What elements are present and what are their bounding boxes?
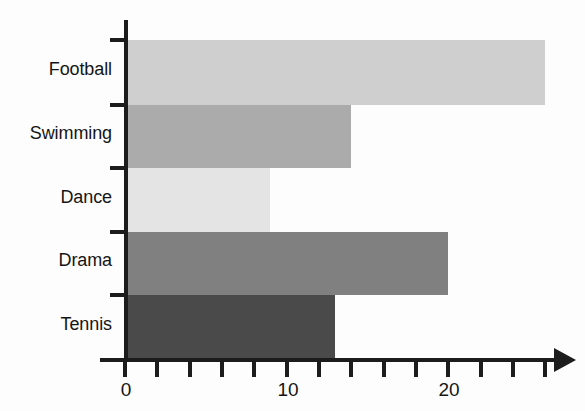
bar-chart: Football Swimming Dance Drama Tennis 0 1… [0, 0, 585, 411]
x-axis-tick [155, 360, 159, 377]
x-axis-tick [446, 360, 450, 377]
bar-dance [125, 168, 270, 232]
y-axis-tick [110, 38, 128, 42]
plot-area: Football Swimming Dance Drama Tennis 0 1… [0, 0, 585, 411]
x-axis-label-10: 10 [268, 379, 308, 401]
y-axis-label-drama: Drama [0, 250, 112, 276]
bar-swimming [125, 105, 351, 168]
y-axis-tick [110, 103, 128, 107]
x-axis-tick [543, 360, 547, 377]
bar-football [125, 40, 545, 105]
bar-drama [125, 232, 448, 295]
x-axis-tick [479, 360, 483, 377]
x-axis-tick [188, 360, 192, 377]
x-axis-tick [349, 360, 353, 377]
x-axis-tick [317, 360, 321, 377]
y-axis-label-swimming: Swimming [0, 123, 112, 149]
y-axis-label-tennis: Tennis [0, 314, 112, 340]
y-axis-label-dance: Dance [0, 187, 112, 213]
x-axis-arrow-icon [554, 348, 576, 372]
x-axis-tick [252, 360, 256, 377]
category-label: Tennis [61, 314, 112, 335]
category-label: Dance [60, 187, 112, 208]
x-axis-tick [511, 360, 515, 377]
x-axis-tick [285, 360, 289, 377]
bar-tennis [125, 295, 335, 360]
x-axis-label-20: 20 [429, 379, 469, 401]
x-axis-tick [414, 360, 418, 377]
category-label: Drama [58, 250, 112, 271]
category-label: Football [49, 59, 112, 80]
x-axis-tick [123, 360, 127, 377]
y-axis-line [124, 20, 128, 362]
x-axis-tick [220, 360, 224, 377]
y-axis-tick [110, 230, 128, 234]
category-label: Swimming [30, 123, 112, 144]
y-axis-tick [110, 293, 128, 297]
x-axis-line [100, 358, 560, 362]
y-axis-label-football: Football [0, 59, 112, 85]
y-axis-tick [110, 166, 128, 170]
x-axis-tick [382, 360, 386, 377]
x-axis-label-0: 0 [106, 379, 146, 401]
